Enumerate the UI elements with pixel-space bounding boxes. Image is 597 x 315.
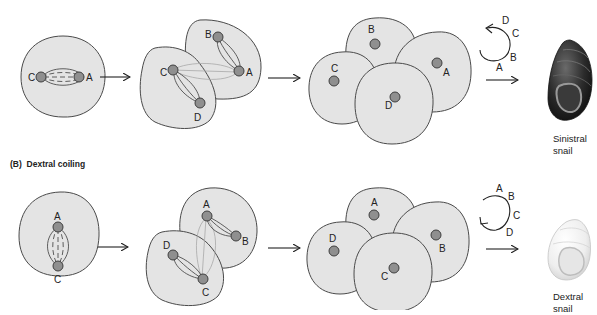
caption-line: Dextral — [553, 291, 583, 303]
caption-line: snail — [553, 303, 583, 315]
label-a: A — [54, 211, 61, 222]
label-d: D — [163, 240, 170, 251]
label-b: B — [439, 243, 446, 254]
label-c: C — [54, 274, 61, 285]
label-c: C — [513, 210, 520, 221]
label-a: A — [203, 199, 210, 210]
dextral-snail-shell — [548, 220, 591, 280]
dextral-stage1-cell — [19, 192, 99, 276]
label-b: B — [242, 236, 249, 247]
label-a: A — [496, 183, 503, 194]
label-a: A — [371, 197, 378, 208]
dextral-snail-caption: Dextral snail — [553, 291, 583, 315]
label-d: D — [506, 227, 513, 238]
label-b: B — [508, 191, 515, 202]
label-d: D — [329, 233, 336, 244]
clockwise-rotation-icon — [480, 196, 510, 230]
label-c: C — [202, 287, 209, 298]
label-c: C — [381, 271, 388, 282]
